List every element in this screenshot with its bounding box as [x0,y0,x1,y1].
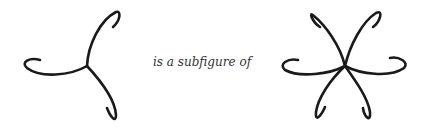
caption-text: is a subfigure of [153,55,251,69]
arm-left [283,60,345,75]
arm-right [345,58,406,74]
arm-up [87,12,119,66]
six-arm-figure [283,12,406,118]
three-arm-figure [25,12,120,119]
arm-upper-left [311,14,345,66]
arm-upper-right [345,12,380,66]
arm-down [87,66,116,119]
arm-left [25,59,87,74]
